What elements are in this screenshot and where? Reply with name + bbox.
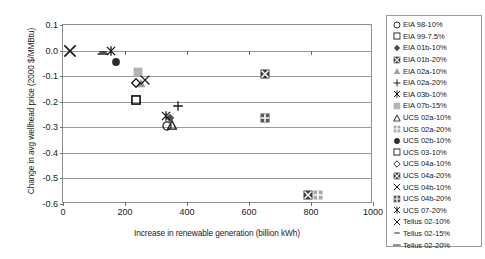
legend-item-label: EIA 03b-10% (403, 90, 447, 99)
legend-marker-icon (390, 147, 403, 158)
y-tick-mark (60, 178, 63, 179)
chart-legend: EIA 98-10%EIA 99-7.5%EIA 01b-10%EIA 01b-… (386, 15, 482, 247)
legend-item-label: EIA 02a-20% (403, 78, 447, 87)
data-point (259, 68, 271, 80)
legend-marker-icon (390, 100, 403, 111)
data-point (63, 43, 78, 58)
legend-marker-icon (390, 19, 403, 30)
legend-item-label: EIA 01b-20% (403, 55, 447, 64)
legend-marker-icon (390, 77, 403, 88)
x-tick-label: 1000 (363, 207, 383, 217)
x-tick-mark-bottom (249, 202, 250, 206)
legend-item-label: UCS 02a-10% (403, 113, 451, 122)
legend-item[interactable]: EIA 98-10% (390, 19, 481, 31)
x-tick-mark-bottom (311, 202, 312, 206)
legend-item[interactable]: UCS 02a-20% (390, 123, 481, 135)
legend-marker-icon (390, 124, 403, 135)
data-point (166, 119, 178, 131)
data-point (130, 94, 142, 106)
y-tick-mark (60, 25, 63, 26)
legend-marker-icon (390, 31, 403, 42)
legend-item[interactable]: EIA 02a-10% (390, 65, 481, 77)
scatter-chart-figure: Change in avg wellhead price (2000 $/MMB… (0, 0, 485, 259)
legend-marker-icon (390, 193, 403, 204)
legend-item[interactable]: Tellus 02-10% (390, 216, 481, 228)
legend-item[interactable]: EIA 01b-20% (390, 54, 481, 66)
legend-marker-icon (390, 135, 403, 146)
x-tick-mark (311, 51, 312, 55)
x-tick-mark-bottom (125, 202, 126, 206)
legend-item[interactable]: EIA 99-7.5% (390, 31, 481, 43)
y-tick-label: -0.1 (42, 71, 58, 81)
legend-item[interactable]: UCS 02b-10% (390, 135, 481, 147)
x-tick-mark-bottom (373, 202, 374, 206)
gridline (63, 178, 371, 179)
y-tick-label: -0.5 (42, 173, 58, 183)
legend-marker-icon (390, 66, 403, 77)
legend-item[interactable]: EIA 07b-15% (390, 100, 481, 112)
y-tick-label: -0.2 (42, 97, 58, 107)
legend-item-label: EIA 07b-15% (403, 101, 447, 110)
x-tick-label: 400 (179, 207, 194, 217)
y-tick-mark (60, 153, 63, 154)
data-point (302, 190, 314, 202)
gridline (63, 153, 371, 154)
x-tick-mark (125, 51, 126, 55)
legend-item-label: UCS 03-10% (403, 148, 447, 157)
data-point (98, 48, 110, 60)
x-axis-title: Increase in renewable generation (billio… (62, 228, 372, 238)
legend-item-label: UCS 04b-10% (403, 183, 451, 192)
legend-item[interactable]: UCS 02a-10% (390, 112, 481, 124)
legend-item-label: EIA 02a-10% (403, 67, 447, 76)
gridline (63, 127, 371, 128)
legend-marker-icon (390, 54, 403, 65)
x-tick-label: 800 (303, 207, 318, 217)
legend-item-label: Tellus 02-10% (403, 217, 450, 226)
x-tick-label: 600 (241, 207, 256, 217)
legend-item-label: Tellus 02-15% (403, 229, 450, 238)
y-tick-label: -0.4 (42, 148, 58, 158)
legend-marker-icon (390, 170, 403, 181)
legend-item[interactable]: EIA 03b-10% (390, 89, 481, 101)
y-tick-mark (60, 76, 63, 77)
legend-item-label: EIA 98-10% (403, 20, 443, 29)
legend-item-label: EIA 01b-10% (403, 43, 447, 52)
legend-item[interactable]: Tellus 02-20% (390, 239, 481, 251)
x-tick-mark-bottom (63, 202, 64, 206)
legend-item[interactable]: EIA 02a-20% (390, 77, 481, 89)
legend-item-label: UCS 04b-20% (403, 194, 451, 203)
x-tick-label: 0 (60, 207, 65, 217)
y-tick-label: 0.0 (45, 46, 58, 56)
legend-item-label: EIA 99-7.5% (403, 32, 445, 41)
legend-marker-icon (390, 228, 403, 239)
legend-item-label: Tellus 02-20% (403, 241, 450, 250)
y-tick-mark (60, 102, 63, 103)
legend-item[interactable]: UCS 04a-20% (390, 170, 481, 182)
data-point (140, 74, 152, 86)
data-point (259, 113, 271, 125)
legend-item-label: UCS 02a-20% (403, 125, 451, 134)
x-tick-mark (249, 51, 250, 55)
legend-item[interactable]: UCS 03-10% (390, 147, 481, 159)
y-tick-label: -0.3 (42, 122, 58, 132)
legend-marker-icon (390, 42, 403, 53)
legend-item[interactable]: EIA 01b-10% (390, 42, 481, 54)
legend-item[interactable]: UCS 04b-10% (390, 181, 481, 193)
x-tick-mark (187, 51, 188, 55)
legend-item[interactable]: UCS 07-20% (390, 205, 481, 217)
legend-item-label: UCS 04a-10% (403, 159, 451, 168)
legend-marker-icon (390, 216, 403, 227)
y-axis-title: Change in avg wellhead price (2000 $/MMB… (26, 0, 36, 226)
legend-item[interactable]: UCS 04a-10% (390, 158, 481, 170)
y-tick-label: 0.1 (45, 20, 58, 30)
data-point (172, 100, 184, 112)
legend-item-label: UCS 04a-20% (403, 171, 451, 180)
legend-marker-icon (390, 182, 403, 193)
data-point (110, 56, 122, 68)
y-tick-label: -0.6 (42, 199, 58, 209)
legend-item[interactable]: Tellus 02-15% (390, 228, 481, 240)
legend-item-label: UCS 07-20% (403, 206, 447, 215)
legend-item[interactable]: UCS 04b-20% (390, 193, 481, 205)
legend-marker-icon (390, 89, 403, 100)
legend-item-label: UCS 02b-10% (403, 136, 451, 145)
